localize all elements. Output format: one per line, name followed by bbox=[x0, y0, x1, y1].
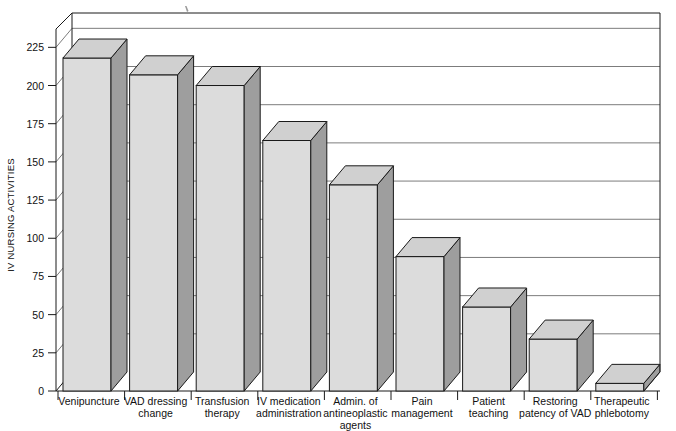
bar-front-face bbox=[130, 75, 178, 391]
x-axis-category-label: Patient bbox=[472, 395, 505, 407]
bar-chart: IV NURSING ACTIVITIES 025507510012515017… bbox=[0, 0, 676, 431]
x-axis-category-label: administration bbox=[256, 407, 322, 419]
x-axis-category-label: Admin. of bbox=[333, 395, 377, 407]
bar-side-face bbox=[444, 238, 460, 391]
y-tick-label: 50 bbox=[32, 309, 44, 321]
bar-side-face bbox=[244, 67, 260, 391]
bar-front-face bbox=[596, 383, 644, 391]
x-axis-category-label: IV medication bbox=[257, 395, 321, 407]
x-axis-category-label: Venipuncture bbox=[58, 395, 119, 407]
x-axis-category-label: Restoring bbox=[533, 395, 578, 407]
bar bbox=[196, 67, 260, 391]
y-tick-label: 0 bbox=[38, 385, 44, 397]
x-axis-category-label: teaching bbox=[469, 407, 509, 419]
y-tick-label: 225 bbox=[26, 41, 44, 53]
y-tick-label: 175 bbox=[26, 118, 44, 130]
y-axis-title: IV NURSING ACTIVITIES bbox=[5, 158, 16, 271]
x-axis-category-label: change bbox=[138, 407, 173, 419]
x-axis-category-label: management bbox=[391, 407, 452, 419]
x-axis-category-label: phlebotomy bbox=[595, 407, 650, 419]
y-tick-label: 200 bbox=[26, 80, 44, 92]
bar bbox=[396, 238, 460, 391]
bar bbox=[63, 39, 127, 391]
x-axis-category-label: Pain bbox=[411, 395, 432, 407]
bar bbox=[329, 166, 393, 391]
x-axis-category-label: Therapeutic bbox=[594, 395, 649, 407]
y-tick-label: 100 bbox=[26, 232, 44, 244]
y-tick-label: 75 bbox=[32, 270, 44, 282]
x-axis-category-label: antineoplastic bbox=[323, 407, 387, 419]
x-axis-category-label: VAD dressing bbox=[124, 395, 188, 407]
x-axis-category-label: Transfusion bbox=[195, 395, 250, 407]
bar-side-face bbox=[111, 39, 127, 391]
bar-side-face bbox=[178, 56, 194, 391]
x-axis-category-label: agents bbox=[340, 419, 372, 431]
x-axis-category-label: therapy bbox=[205, 407, 241, 419]
y-tick-label: 25 bbox=[32, 347, 44, 359]
bar bbox=[529, 320, 593, 391]
chart-canvas: IV NURSING ACTIVITIES 025507510012515017… bbox=[0, 0, 676, 431]
bar-front-face bbox=[196, 86, 244, 391]
bar-side-face bbox=[311, 122, 327, 391]
y-tick-label: 150 bbox=[26, 156, 44, 168]
y-tick-label: 125 bbox=[26, 194, 44, 206]
bar-front-face bbox=[63, 58, 111, 391]
bar bbox=[130, 56, 194, 391]
x-axis-category-label: patency of VAD bbox=[519, 407, 592, 419]
bar-front-face bbox=[329, 185, 377, 391]
bar bbox=[463, 288, 527, 391]
bar-side-face bbox=[377, 166, 393, 391]
bar-front-face bbox=[529, 339, 577, 391]
bar-front-face bbox=[263, 141, 311, 391]
bar-front-face bbox=[463, 307, 511, 391]
bar bbox=[263, 122, 327, 391]
bar-front-face bbox=[396, 257, 444, 391]
